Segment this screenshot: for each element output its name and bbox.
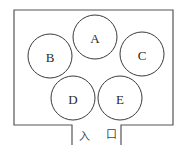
booth-c: C [120,32,164,76]
booth-b: B [28,34,72,78]
entrance-label-char-1: 入 [79,130,90,143]
booth-a: A [73,15,117,59]
booth-c-label: C [138,48,147,63]
booth-a-label: A [90,31,100,46]
entrance-label-char-2: 口 [106,128,117,141]
booth-d: D [51,76,95,120]
floor-plan-diagram: A B C D E 入 口 [0,0,183,155]
booth-e-label: E [116,92,124,107]
booth-b-label: B [46,50,55,65]
entrance: 入 口 [79,128,117,143]
booth-e: E [98,76,142,120]
booth-d-label: D [68,92,77,107]
